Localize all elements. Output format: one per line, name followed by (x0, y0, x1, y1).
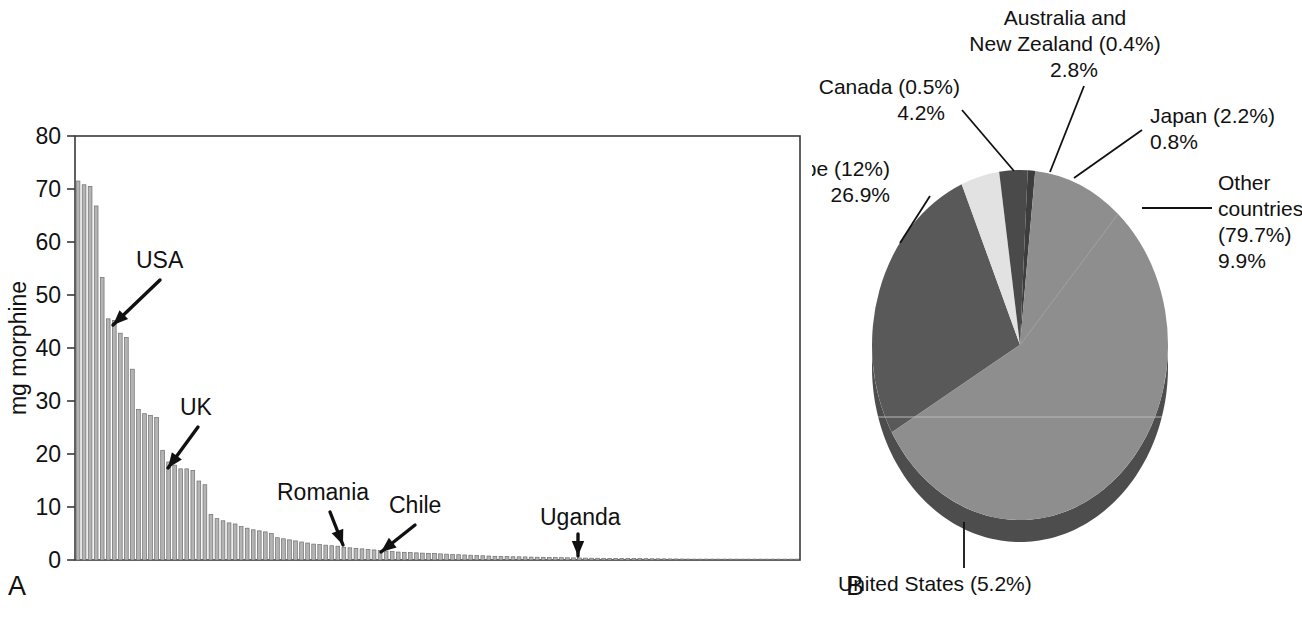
bar (765, 559, 769, 560)
y-tick-label: 70 (35, 176, 61, 202)
bar (620, 558, 624, 560)
bar-annotation: Romania (277, 479, 369, 545)
bar (644, 559, 648, 560)
bar (143, 414, 147, 560)
bar (614, 558, 618, 560)
bar (463, 555, 467, 560)
bar (82, 185, 86, 560)
bar (191, 470, 195, 560)
bar (330, 546, 334, 560)
bar (626, 559, 630, 560)
bar (402, 552, 406, 560)
bar (723, 559, 727, 560)
bar (167, 462, 171, 560)
bar (131, 369, 135, 560)
bar (282, 539, 286, 560)
annotation-label: Chile (389, 492, 441, 518)
y-tick-label: 20 (35, 441, 61, 467)
pie-label-us-line1: United States (5.2%) (838, 572, 1032, 595)
pie-label-europe-line2: 26.9% (830, 183, 890, 206)
bar (747, 559, 751, 560)
bar (137, 409, 141, 560)
bar (487, 556, 491, 560)
bar (541, 557, 545, 560)
pie-label-japan-line2: 0.8% (1150, 130, 1198, 153)
bar (94, 206, 98, 560)
bar (239, 527, 243, 560)
bar (124, 337, 128, 560)
bar (149, 415, 153, 560)
bar (783, 559, 787, 560)
bar (215, 519, 219, 560)
bar (704, 559, 708, 560)
bar (88, 186, 92, 560)
figure-container: 01020304050607080mg morphineUSAUKRomania… (0, 0, 1302, 620)
pie-label-other-line3: (79.7%) (1218, 223, 1292, 246)
bar (439, 554, 443, 560)
bar (584, 558, 588, 560)
pie-label-europe-line1: Europe (12%) (812, 157, 890, 180)
bar (729, 559, 733, 560)
bar-annotation: USA (113, 247, 184, 325)
bar (529, 557, 533, 560)
bar (475, 555, 479, 560)
bar (233, 524, 237, 560)
bar (203, 485, 207, 560)
annotation-label: Uganda (540, 504, 621, 530)
bar (789, 559, 793, 560)
panel-a-bar-chart: 01020304050607080mg morphineUSAUKRomania… (0, 0, 820, 600)
bar (771, 559, 775, 560)
bar (493, 556, 497, 560)
bar (312, 544, 316, 560)
bar (414, 553, 418, 560)
bar (155, 417, 159, 560)
bar (674, 559, 678, 560)
annotation-arrow-head (572, 541, 584, 556)
bar (354, 548, 358, 560)
annotations-group: USAUKRomaniaChileUganda (113, 247, 621, 556)
bar (433, 554, 437, 560)
pie-label-other-line1: Other (1218, 171, 1271, 194)
pie-label-anz-line1: Australia and (1004, 6, 1127, 29)
bar (753, 559, 757, 560)
bar (342, 547, 346, 560)
y-tick-label: 10 (35, 494, 61, 520)
bar (735, 559, 739, 560)
bar (517, 557, 521, 560)
bar (173, 465, 177, 560)
bar (324, 545, 328, 560)
bar (197, 481, 201, 560)
bar (608, 558, 612, 560)
bar (481, 556, 485, 560)
bar (276, 538, 280, 560)
annotation-label: UK (180, 394, 213, 420)
bar (668, 559, 672, 560)
bar (741, 559, 745, 560)
pie-label-canada-line2: 4.2% (897, 101, 945, 124)
bar (366, 549, 370, 560)
bar (638, 559, 642, 560)
bar (269, 534, 273, 561)
pie-label-anz-line3: 2.8% (1050, 58, 1098, 81)
bar (656, 559, 660, 560)
bar (547, 557, 551, 560)
pie-label-japan-line1: Japan (2.2%) (1150, 104, 1275, 127)
bar (662, 559, 666, 560)
bar (559, 558, 563, 560)
pie-label-canada-line1: Canada (0.5%) (819, 75, 960, 98)
annotation-arrow-head (332, 529, 344, 545)
bar (777, 559, 781, 560)
bar (372, 550, 376, 560)
panel-b-letter: B (846, 571, 864, 602)
pie-label-us-line2: 55.4% (912, 598, 972, 600)
bar (227, 523, 231, 560)
bar (300, 542, 304, 560)
bar (106, 319, 110, 560)
bar (566, 558, 570, 560)
bar (572, 558, 576, 560)
bar (179, 469, 183, 560)
y-tick-label: 0 (48, 547, 61, 573)
annotation-label: USA (136, 247, 184, 273)
bar (686, 559, 690, 560)
bar (161, 450, 165, 560)
